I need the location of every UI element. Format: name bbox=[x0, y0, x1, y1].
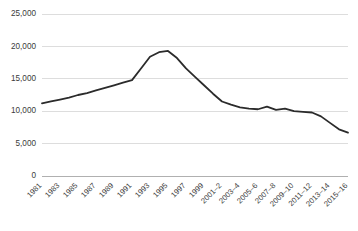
y-axis-tick-label: 5,000 bbox=[16, 139, 37, 148]
gridlines bbox=[42, 14, 348, 144]
y-axis-tick-label: 0 bbox=[31, 171, 36, 180]
x-axis-tick-label: 1997 bbox=[169, 181, 187, 199]
series-line bbox=[42, 51, 348, 133]
x-axis-tick-label: 1995 bbox=[151, 181, 169, 199]
chart-canvas: 05,00010,00015,00020,00025,000 198119831… bbox=[0, 0, 358, 231]
x-axis-tick-label: 1993 bbox=[133, 181, 151, 199]
x-axis-tick-label: 1991 bbox=[115, 181, 133, 199]
x-axis-tick-labels: 1981198319851987198919911993199519971999… bbox=[25, 181, 349, 208]
y-axis-tick-label: 10,000 bbox=[11, 106, 36, 115]
y-axis-tick-label: 25,000 bbox=[11, 9, 36, 18]
y-axis-tick-labels: 05,00010,00015,00020,00025,000 bbox=[11, 9, 36, 180]
x-axis-tick-label: 1987 bbox=[79, 181, 97, 199]
data-series bbox=[42, 51, 348, 133]
x-axis-tick-label: 1981 bbox=[25, 181, 43, 199]
x-axis-tick-label: 1989 bbox=[97, 181, 115, 199]
x-axis-tick-label: 1983 bbox=[43, 181, 61, 199]
y-axis-tick-label: 20,000 bbox=[11, 42, 36, 51]
y-axis-tick-label: 15,000 bbox=[11, 74, 36, 83]
line-chart: 05,00010,00015,00020,00025,000 198119831… bbox=[0, 0, 358, 231]
x-axis-tick-label: 1985 bbox=[61, 181, 79, 199]
